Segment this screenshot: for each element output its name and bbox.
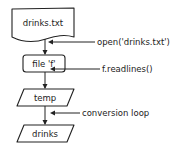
arrowhead-left-icon bbox=[48, 40, 53, 45]
arrowhead-down-icon bbox=[43, 84, 48, 89]
edge-label: conversion loop bbox=[82, 108, 149, 118]
edge-label: f.readlines() bbox=[102, 64, 153, 74]
arrowhead-down-icon bbox=[43, 120, 48, 125]
node-label: drinks.txt bbox=[23, 18, 64, 28]
arrowhead-left-icon bbox=[50, 111, 55, 116]
flowchart-diagram: drinks.txt open('drinks.txt') file 'f' f… bbox=[0, 0, 194, 150]
node-temp: temp bbox=[17, 89, 74, 106]
node-label: temp bbox=[34, 93, 56, 103]
node-drinks-txt-document: drinks.txt bbox=[12, 8, 74, 41]
edge-open-file: open('drinks.txt') bbox=[43, 37, 170, 55]
arrowhead-down-icon bbox=[43, 50, 48, 55]
node-label: drinks bbox=[32, 129, 59, 139]
node-drinks: drinks bbox=[17, 125, 74, 142]
edge-conversion-loop: conversion loop bbox=[43, 106, 150, 125]
node-label: file 'f' bbox=[32, 59, 55, 69]
edge-label: open('drinks.txt') bbox=[97, 37, 170, 47]
